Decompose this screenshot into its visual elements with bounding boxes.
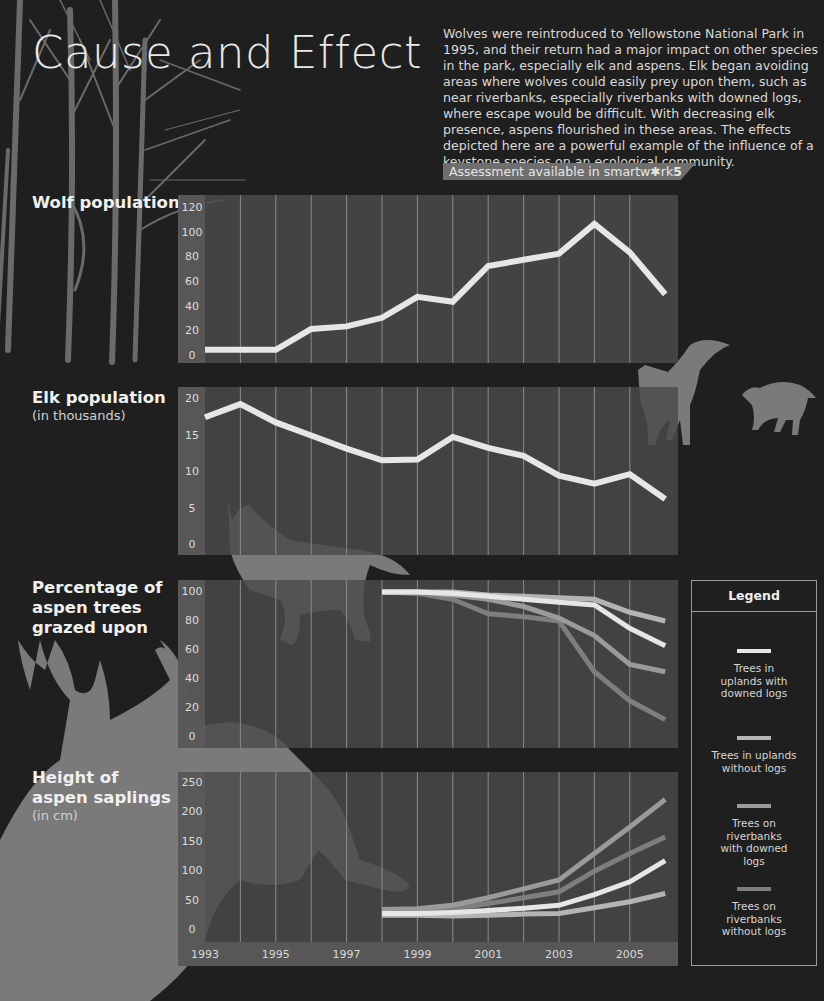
elk-line-plot xyxy=(178,387,678,555)
legend-label: Trees in uplands with downed logs xyxy=(692,662,816,700)
badge-number: 5 xyxy=(673,164,682,179)
elk-chart-title: Elk population xyxy=(32,388,166,408)
page-title: Cause and Effect xyxy=(32,26,422,79)
elk-section-heading: Elk population (in thousands) xyxy=(32,388,166,423)
assessment-badge[interactable]: Assessment available in smartw✱rk5 xyxy=(443,163,696,180)
badge-text: Assessment available in smartw✱rk xyxy=(449,164,673,179)
wolf-chart-title: Wolf population xyxy=(32,193,180,213)
wolf-silhouette-walking xyxy=(742,382,816,435)
legend-item-riverbanks-no-logs: Trees on riverbanks without logs xyxy=(692,887,816,938)
legend-swatch xyxy=(737,736,771,740)
legend-swatch xyxy=(737,649,771,653)
height-chart: 050100150200250 199319951997199920012003… xyxy=(178,772,678,966)
grazed-line-plot xyxy=(178,580,678,748)
height-chart-title: Height of aspen saplings xyxy=(32,768,172,808)
series-line xyxy=(205,224,665,350)
height-line-plot xyxy=(178,772,678,966)
legend-swatch xyxy=(737,887,771,891)
series-line xyxy=(205,404,665,499)
legend: Legend Trees in uplands with downed logs… xyxy=(691,580,817,966)
legend-label: Trees on riverbanks with downed logs xyxy=(692,817,816,867)
height-chart-subtitle: (in cm) xyxy=(32,808,172,823)
intro-paragraph: Wolves were reintroduced to Yellowstone … xyxy=(443,26,824,170)
legend-item-uplands-no-logs: Trees in uplands without logs xyxy=(692,736,816,774)
height-section-heading: Height of aspen saplings (in cm) xyxy=(32,768,172,823)
legend-title: Legend xyxy=(692,581,816,612)
grazed-chart-title: Percentage of aspen trees grazed upon xyxy=(32,578,172,638)
elk-chart-subtitle: (in thousands) xyxy=(32,408,166,423)
grazed-section-heading: Percentage of aspen trees grazed upon xyxy=(32,578,172,638)
wolf-section-heading: Wolf population xyxy=(32,193,180,213)
legend-item-uplands-logs: Trees in uplands with downed logs xyxy=(692,649,816,700)
wolf-chart: 020406080100120 xyxy=(178,195,678,363)
legend-label: Trees on riverbanks without logs xyxy=(692,900,816,938)
grazed-chart: 020406080100 xyxy=(178,580,678,748)
legend-label: Trees in uplands without logs xyxy=(692,749,816,774)
elk-chart: 05101520 xyxy=(178,387,678,555)
legend-swatch xyxy=(737,804,771,808)
wolf-line-plot xyxy=(178,195,678,363)
legend-item-riverbanks-logs: Trees on riverbanks with downed logs xyxy=(692,804,816,867)
